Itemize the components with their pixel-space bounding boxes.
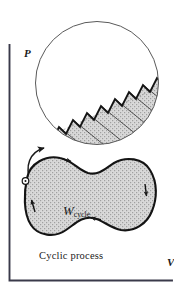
figure-caption: Cyclic process [39, 250, 103, 261]
work-cycle-label: Wcycle [63, 203, 90, 219]
work-subscript: cycle [74, 210, 90, 219]
axis-label-volume: V [167, 256, 174, 268]
work-symbol: W [63, 203, 74, 218]
pv-diagram-figure [0, 0, 174, 286]
axis-label-pressure: P [24, 47, 31, 59]
state-point-circle [22, 178, 29, 185]
